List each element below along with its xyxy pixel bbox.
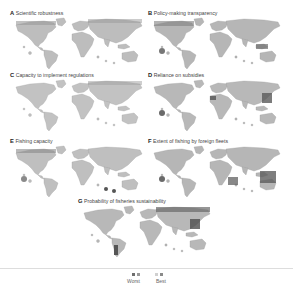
panel-c: CCapacity to implement regulations	[10, 72, 146, 132]
panel-f: FExtent of fishing by foreign fleets	[148, 138, 284, 198]
legend-swatch-best-2	[160, 273, 163, 276]
panel-g-title: GProbability of fisheries sustainability	[78, 198, 166, 204]
world-map-f	[148, 145, 284, 197]
world-map-b	[148, 17, 284, 69]
panel-e: EFishing capacity	[10, 138, 146, 198]
panel-b: BPolicy-making transparency	[148, 10, 284, 70]
legend-swatch-worst-1	[132, 273, 135, 276]
legend-best-label: Best	[156, 278, 166, 284]
panel-a: AScientific robustness	[10, 10, 146, 70]
panel-f-title: FExtent of fishing by foreign fleets	[148, 138, 228, 144]
panel-d: DReliance on subsidies	[148, 72, 284, 132]
world-map-c	[10, 79, 146, 131]
panel-b-title: BPolicy-making transparency	[148, 10, 217, 16]
panel-d-title: DReliance on subsidies	[148, 72, 204, 78]
legend-divider	[0, 268, 293, 269]
panel-e-title: EFishing capacity	[10, 138, 53, 144]
panel-a-title: AScientific robustness	[10, 10, 63, 16]
legend-swatch-best-1	[155, 273, 158, 276]
world-map-g	[78, 205, 214, 257]
legend-swatch-worst-2	[137, 273, 140, 276]
panel-c-title: CCapacity to implement regulations	[10, 72, 94, 78]
world-map-a	[10, 17, 146, 69]
panel-g: GProbability of fisheries sustainability	[78, 198, 214, 258]
world-map-e	[10, 145, 146, 197]
legend: Worst Best	[0, 272, 293, 292]
legend-worst-label: Worst	[127, 278, 140, 284]
world-map-d	[148, 79, 284, 131]
